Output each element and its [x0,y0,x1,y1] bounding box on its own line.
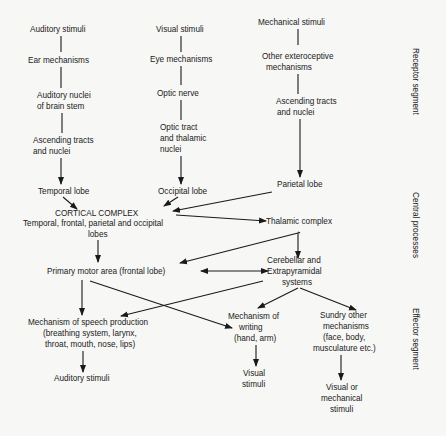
svg-text:of brain stem: of brain stem [37,102,85,111]
node-ascending-tracts-mechanical: Ascending tracts [276,97,337,106]
svg-text:systems: systems [282,278,312,287]
node-thalamic-complex: Thalamic complex [266,217,332,226]
node-visual-or-mechanical: Visual or [326,383,358,392]
node-ear-mechanisms: Ear mechanisms [28,56,89,65]
node-cortical-complex: CORTICAL COMPLEX [55,209,139,218]
node-other-exteroceptive: Other exteroceptive [262,52,334,61]
svg-text:Temporal, frontal, parietal an: Temporal, frontal, parietal and occipita… [23,219,163,228]
auditory-column: Auditory stimuli Ear mechanisms Auditory… [28,25,94,196]
node-auditory-stimuli: Auditory stimuli [30,25,86,34]
svg-text:mechanisms: mechanisms [266,63,312,72]
node-writing: Mechanism of [228,312,280,321]
label-effector-segment: Effector segment [411,308,420,370]
node-speech-production: Mechanism of speech production [28,318,149,327]
svg-text:nuclei: nuclei [160,145,182,154]
node-optic-tract: Optic tract [160,123,198,132]
label-central-processes: Central processes [411,192,420,258]
node-ascending-tracts-auditory: Ascending tracts [33,136,94,145]
writing-mechanism: Mechanism of writing (hand, arm) Visual … [228,312,280,389]
label-receptor-segment: Receptor segment [411,48,420,116]
node-optic-nerve: Optic nerve [157,89,199,98]
svg-text:stimuli: stimuli [242,380,265,389]
svg-text:and nuclei: and nuclei [33,147,71,156]
node-mechanical-stimuli: Mechanical stimuli [258,18,325,27]
node-eye-mechanisms: Eye mechanisms [150,55,212,64]
svg-text:and nuclei: and nuclei [277,108,315,117]
visual-column: Visual stimuli Eye mechanisms Optic nerv… [150,25,212,196]
svg-text:(hand, arm): (hand, arm) [234,334,277,343]
svg-text:mechanisms: mechanisms [323,322,369,331]
cortical-complex: CORTICAL COMPLEX Temporal, frontal, pari… [23,192,332,239]
node-visual-stimuli: Visual stimuli [156,25,204,34]
svg-text:(face, body,: (face, body, [323,333,365,342]
svg-text:Extrapyramidal: Extrapyramidal [267,267,322,276]
node-occipital-lobe: Occipital lobe [158,187,208,196]
node-auditory-stimuli-output: Auditory stimuli [54,374,110,383]
node-parietal-lobe: Parietal lobe [277,180,323,189]
svg-text:musculature etc.): musculature etc.) [313,344,376,353]
svg-text:throat, mouth, nose, lips): throat, mouth, nose, lips) [45,340,135,349]
mechanical-column: Mechanical stimuli Other exteroceptive m… [258,18,337,189]
svg-text:stimuli: stimuli [330,405,353,414]
svg-text:(breathing system, larynx,: (breathing system, larynx, [43,329,137,338]
node-sundry-other: Sundry other [320,311,367,320]
node-auditory-nuclei: Auditory nuclei [37,91,91,100]
speech-mechanism: Mechanism of speech production (breathin… [28,318,149,383]
neural-pathway-diagram: Auditory stimuli Ear mechanisms Auditory… [0,0,446,436]
node-cerebellar: Cerebellar and [267,256,321,265]
sundry-mechanism: Sundry other mechanisms (face, body, mus… [313,311,376,414]
svg-text:and thalamic: and thalamic [160,134,206,143]
svg-text:lobes: lobes [88,230,108,239]
svg-text:writing: writing [238,323,263,332]
node-visual-stimuli-output: Visual [243,369,265,378]
node-temporal-lobe: Temporal lobe [38,187,90,196]
svg-text:mechanical: mechanical [321,394,363,403]
node-primary-motor-area: Primary motor area (frontal lobe) [47,267,166,276]
